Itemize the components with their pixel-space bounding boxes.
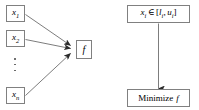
objective-box: Minimizef xyxy=(127,89,190,107)
edge-x2-to-f xyxy=(26,40,71,49)
vertical-ellipsis-icon xyxy=(13,58,17,71)
objective-expression: Minimizef xyxy=(138,94,179,103)
constraint-expression: xi∈[li,ui] xyxy=(141,8,177,19)
input-node-x2: x2 xyxy=(6,30,25,47)
input-node-xn: xn xyxy=(6,87,25,104)
function-node-f-label: f xyxy=(83,45,86,55)
input-node-xn-subscript: n xyxy=(16,94,19,101)
constraint-variable-subscript: i xyxy=(145,12,147,19)
diagram-canvas: x1 x2 xn f xi∈[li,ui] Minimizef xyxy=(0,0,199,110)
input-node-x1: x1 xyxy=(6,5,25,22)
bounds-comma: , xyxy=(163,7,165,17)
objective-verb: Minimize xyxy=(138,93,173,103)
input-node-x2-label: x2 xyxy=(12,33,19,44)
input-node-x2-subscript: 2 xyxy=(16,37,19,44)
close-bracket: ] xyxy=(173,7,176,17)
function-node-f: f xyxy=(76,40,92,59)
input-node-x1-subscript: 1 xyxy=(16,12,19,19)
membership-symbol: ∈ xyxy=(148,7,155,17)
input-node-xn-label: xn xyxy=(12,90,19,101)
edge-x1-to-f xyxy=(26,15,71,46)
constraint-box: xi∈[li,ui] xyxy=(127,5,190,23)
edge-xn-to-f xyxy=(26,54,71,96)
objective-function: f xyxy=(176,93,179,103)
input-node-x1-label: x1 xyxy=(12,8,19,19)
